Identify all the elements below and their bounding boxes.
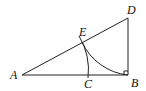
geometry-diagram: A B C D E	[0, 0, 146, 91]
label-c: C	[84, 77, 93, 91]
label-e: E	[78, 25, 87, 39]
label-d: D	[126, 3, 136, 17]
segment-ad	[22, 18, 128, 75]
label-b: B	[131, 76, 139, 90]
label-a: A	[9, 68, 18, 82]
